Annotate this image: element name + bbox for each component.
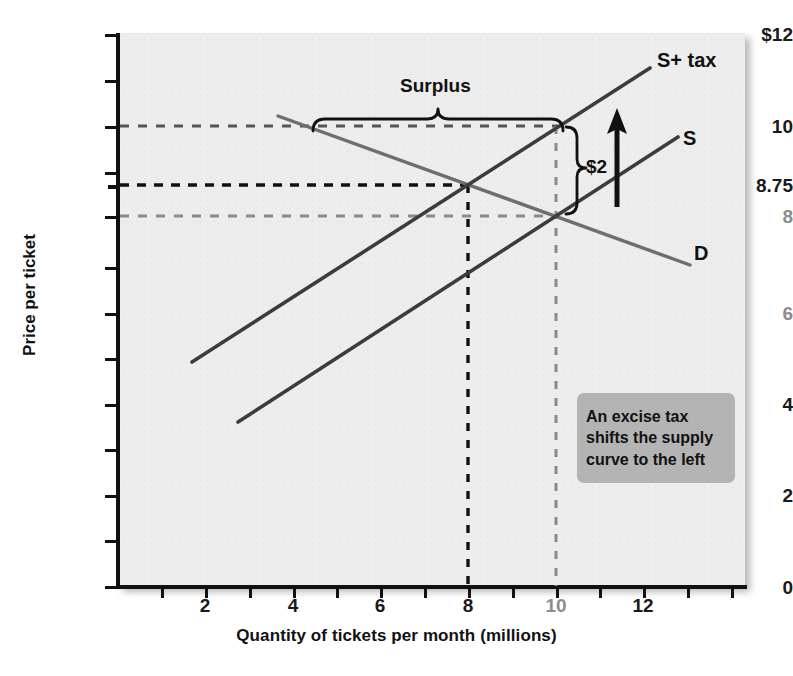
surplus-brace <box>313 109 563 131</box>
callout-text: An excise tax shifts the supply curve to… <box>577 406 735 469</box>
surplus-label: Surplus <box>400 75 471 97</box>
curve-supply-plus-tax <box>192 68 650 362</box>
curve-label-supply: S <box>683 128 696 148</box>
curve-label-supply-plus-tax: S+ tax <box>657 50 716 70</box>
curve-demand <box>278 116 690 265</box>
chart-vector-layer <box>0 0 793 676</box>
callout-box: An excise tax shifts the supply curve to… <box>577 393 735 483</box>
chart-figure: $12 10 8.75 8 6 4 2 0 2 4 6 8 10 12 Quan… <box>0 0 793 676</box>
tax-wedge-brace <box>566 127 586 214</box>
shift-arrow-icon <box>607 108 627 207</box>
tax-amount-label: $2 <box>586 156 607 178</box>
curve-label-demand: D <box>694 243 708 263</box>
